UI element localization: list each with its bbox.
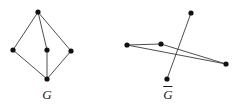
graph-label-g: G bbox=[42, 88, 51, 101]
graph-edge bbox=[13, 50, 47, 79]
edges-graph-g-complement bbox=[127, 13, 226, 79]
graph-label-g-complement-glyph: G bbox=[163, 87, 172, 102]
graph-vertex-center bbox=[158, 41, 163, 46]
graph-label-g-complement: G bbox=[163, 86, 172, 101]
graph-vertex-right bbox=[223, 61, 228, 66]
graph-vertex-left bbox=[124, 42, 129, 47]
graph-edge bbox=[127, 45, 226, 64]
vertices-layer bbox=[10, 9, 228, 81]
graph-edge bbox=[161, 44, 226, 64]
graph-drawing-canvas bbox=[0, 0, 244, 110]
graph-vertex-center bbox=[44, 47, 49, 52]
vertices-graph-g-complement bbox=[124, 10, 228, 81]
graph-edge bbox=[167, 13, 191, 79]
graph-vertex-bottom bbox=[44, 76, 49, 81]
graph-vertex-top bbox=[35, 9, 40, 14]
graph-edge bbox=[47, 51, 71, 79]
graph-label-g-complement-wrap: G bbox=[163, 86, 172, 101]
graph-vertex-right bbox=[68, 48, 73, 53]
graph-vertex-left bbox=[10, 47, 15, 52]
graph-vertex-top bbox=[188, 10, 193, 15]
edges-graph-g bbox=[13, 12, 71, 79]
graph-label-g-glyph: G bbox=[42, 88, 51, 101]
graph-vertex-bottom bbox=[164, 76, 169, 81]
figure-graph-and-complement: G G bbox=[0, 0, 244, 110]
graph-edge bbox=[127, 44, 161, 45]
vertices-graph-g bbox=[10, 9, 73, 81]
edges-layer bbox=[13, 12, 226, 79]
graph-edge bbox=[13, 12, 38, 50]
